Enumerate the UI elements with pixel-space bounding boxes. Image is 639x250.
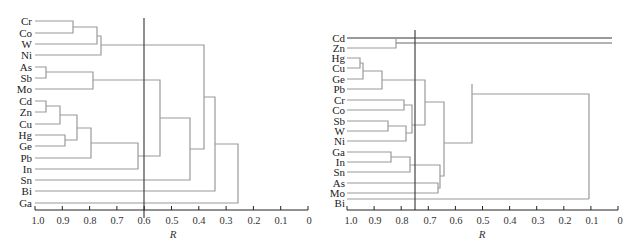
svg-text:0.7: 0.7 bbox=[110, 215, 123, 226]
svg-text:0.2: 0.2 bbox=[247, 215, 260, 226]
svg-text:0.5: 0.5 bbox=[476, 215, 489, 226]
svg-text:0.2: 0.2 bbox=[558, 215, 571, 226]
svg-text:0.1: 0.1 bbox=[274, 215, 287, 226]
left-dendrogram bbox=[35, 21, 238, 203]
svg-text:0.6: 0.6 bbox=[137, 215, 150, 226]
svg-text:0.3: 0.3 bbox=[531, 215, 544, 226]
svg-text:Bi: Bi bbox=[335, 197, 345, 209]
right-tick-labels: 1.0 0.9 0.8 0.7 0.6 0.5 0.4 0.3 0.2 0.1 … bbox=[344, 215, 622, 240]
svg-text:Ni: Ni bbox=[21, 49, 32, 61]
svg-text:0.4: 0.4 bbox=[503, 215, 517, 226]
svg-text:0.9: 0.9 bbox=[368, 215, 381, 226]
left-leaf-labels: Cr Co W Ni As Sb Mo Cd Zn Cu Hg Ge Pb In… bbox=[17, 15, 33, 209]
svg-text:0.4: 0.4 bbox=[192, 215, 206, 226]
svg-text:0.1: 0.1 bbox=[585, 215, 598, 226]
svg-text:0.9: 0.9 bbox=[56, 215, 69, 226]
left-x-axis bbox=[35, 206, 308, 210]
svg-text:Mo: Mo bbox=[17, 83, 33, 95]
svg-text:1.0: 1.0 bbox=[344, 215, 357, 226]
svg-text:0.6: 0.6 bbox=[449, 215, 462, 226]
right-leaf-labels: Cd Zn Hg Cu Ge Pb Cr Co Sb W Ni Ga In Sn… bbox=[330, 32, 346, 209]
svg-text:Ge: Ge bbox=[19, 140, 32, 152]
svg-text:Zn: Zn bbox=[20, 106, 33, 118]
svg-text:0.8: 0.8 bbox=[83, 215, 96, 226]
svg-text:0: 0 bbox=[617, 215, 622, 226]
svg-text:Ga: Ga bbox=[19, 197, 32, 209]
svg-text:0.3: 0.3 bbox=[219, 215, 232, 226]
svg-text:Cr: Cr bbox=[21, 15, 32, 27]
svg-text:Bi: Bi bbox=[22, 185, 32, 197]
svg-text:0: 0 bbox=[306, 215, 311, 226]
left-x-axis-label: R bbox=[169, 228, 177, 240]
right-x-axis bbox=[347, 206, 618, 210]
right-dendrogram bbox=[347, 38, 612, 199]
svg-text:0.8: 0.8 bbox=[395, 215, 408, 226]
dendrogram-figure: 1.0 0.9 0.8 0.7 0.6 0.5 0.4 0.3 0.2 0.1 … bbox=[0, 0, 639, 250]
svg-text:0.5: 0.5 bbox=[165, 215, 178, 226]
svg-text:1.0: 1.0 bbox=[31, 215, 44, 226]
left-tick-labels: 1.0 0.9 0.8 0.7 0.6 0.5 0.4 0.3 0.2 0.1 … bbox=[31, 215, 311, 240]
right-x-axis-label: R bbox=[478, 228, 486, 240]
svg-text:0.7: 0.7 bbox=[423, 215, 436, 226]
